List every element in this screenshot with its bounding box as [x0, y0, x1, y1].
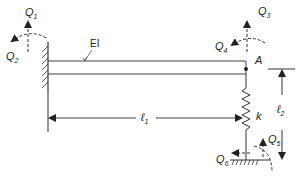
dof-left: Q1 Q2	[6, 6, 46, 64]
svg-text:k: k	[256, 110, 262, 122]
dof-node-a: Q3 Q4	[215, 5, 271, 54]
svg-text:A: A	[254, 54, 262, 66]
svg-text:ℓ1: ℓ1	[140, 111, 149, 125]
svg-text:Q3: Q3	[258, 5, 271, 19]
svg-text:Q1: Q1	[25, 6, 38, 20]
fixed-support-left	[42, 42, 48, 92]
svg-text:ℓ2: ℓ2	[276, 103, 285, 117]
ground-support	[230, 160, 270, 165]
svg-text:Q2: Q2	[6, 50, 19, 64]
dimension-l1: ℓ1	[48, 92, 241, 132]
spring-k: k	[242, 74, 262, 160]
svg-text:Q4: Q4	[215, 40, 228, 54]
dof-bottom: Q5 Q6	[216, 133, 281, 172]
ei-label: EI	[83, 38, 99, 61]
svg-text:Q5: Q5	[268, 133, 281, 147]
structure-diagram: EI Q1 Q2 Q3 Q4 A k	[0, 0, 298, 187]
node-a: A	[244, 54, 262, 71]
svg-text:Q6: Q6	[216, 153, 229, 167]
svg-text:EI: EI	[90, 38, 99, 49]
beam	[48, 61, 246, 74]
